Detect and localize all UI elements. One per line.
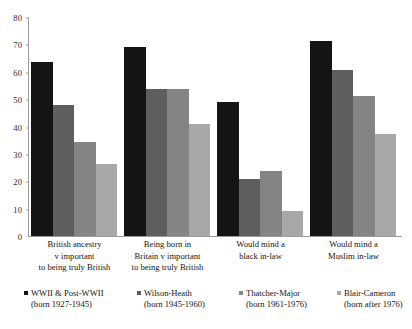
bar [31, 62, 53, 236]
y-axis-tick-label: 50 [13, 96, 22, 105]
bar [375, 134, 397, 236]
bar [217, 102, 239, 236]
x-axis-label-line: Being born in [115, 239, 220, 251]
legend-label: WWII & Post-WWII [31, 288, 104, 298]
bar-chart: 01020304050607080 British ancestryv impo… [0, 0, 412, 329]
bar [146, 89, 168, 236]
bar [282, 211, 304, 236]
bar [239, 179, 261, 236]
x-axis-label: Would mind ablack in-law [208, 239, 313, 262]
bars-layer [29, 18, 401, 236]
bar [96, 164, 118, 236]
x-axis-label-line: Would mind a [301, 239, 406, 251]
legend-swatch-icon [337, 291, 341, 295]
legend-label: Wilson-Heath [144, 288, 192, 298]
legend-label: Blair-Cameron [344, 288, 395, 298]
y-axis-tick-label: 10 [13, 205, 22, 214]
y-axis-tick-label: 30 [13, 151, 22, 160]
bar [124, 47, 146, 236]
bar-group [31, 18, 117, 236]
legend-item[interactable]: WWII & Post-WWII(born 1927-1945) [24, 288, 104, 311]
bar [260, 171, 282, 236]
x-axis-label-line: Would mind a [208, 239, 313, 251]
bar [53, 105, 75, 236]
y-axis: 01020304050607080 [0, 14, 26, 242]
legend-sublabel: (born 1927-1945) [31, 299, 104, 310]
chart-legend: WWII & Post-WWII(born 1927-1945)Wilson-H… [24, 288, 404, 320]
x-axis-label-line: Britain v important [115, 251, 220, 263]
bar [353, 96, 375, 236]
y-axis-tick-label: 60 [13, 69, 22, 78]
x-axis-label-line: Muslim in-law [301, 251, 406, 263]
legend-item[interactable]: Thatcher-Major(born 1961-1976) [239, 288, 307, 311]
x-axis-label-line: British ancestry [22, 239, 127, 251]
bar-group [217, 18, 303, 236]
legend-swatch-icon [137, 291, 141, 295]
y-axis-tick-label: 20 [13, 178, 22, 187]
legend-swatch-icon [24, 291, 28, 295]
y-axis-tick-label: 40 [13, 123, 22, 132]
bar [332, 70, 354, 236]
bar-group [124, 18, 210, 236]
legend-label: Thatcher-Major [246, 288, 300, 298]
y-axis-tick-label: 80 [13, 14, 22, 23]
bar [189, 124, 211, 236]
legend-sublabel: (born after 1976) [344, 299, 403, 310]
x-axis-label: Would mind aMuslim in-law [301, 239, 406, 262]
legend-sublabel: (born 1961-1976) [246, 299, 307, 310]
bar [310, 41, 332, 236]
bar-group [310, 18, 396, 236]
bar [74, 142, 96, 236]
x-axis-category-labels: British ancestryv importantto being trul… [28, 239, 402, 283]
legend-item[interactable]: Blair-Cameron(born after 1976) [337, 288, 403, 311]
legend-swatch-icon [239, 291, 243, 295]
x-axis-label-line: to being truly British [115, 262, 220, 274]
bar [167, 89, 189, 236]
y-axis-tick-label: 70 [13, 41, 22, 50]
legend-item[interactable]: Wilson-Heath(born 1945-1960) [137, 288, 205, 311]
x-axis-label-line: v important [22, 251, 127, 263]
x-axis-label: British ancestryv importantto being trul… [22, 239, 127, 274]
x-axis-label-line: black in-law [208, 251, 313, 263]
legend-sublabel: (born 1945-1960) [144, 299, 205, 310]
x-axis-label-line: to being truly British [22, 262, 127, 274]
x-axis-label: Being born inBritain v importantto being… [115, 239, 220, 274]
